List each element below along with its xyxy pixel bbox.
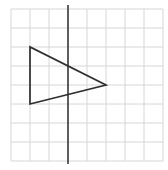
geometry-diagram xyxy=(0,0,168,170)
diagram-stage xyxy=(0,0,168,170)
grid xyxy=(11,9,163,161)
